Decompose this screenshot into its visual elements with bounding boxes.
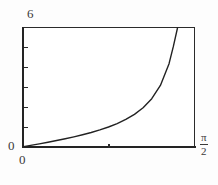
x-axis-max-numerator: π bbox=[200, 132, 208, 144]
figure-canvas: 6 0 0 π 2 bbox=[0, 0, 218, 185]
x-axis-min-label: 0 bbox=[19, 153, 26, 166]
y-axis-min-label: 0 bbox=[8, 139, 15, 152]
x-axis-max-label: π 2 bbox=[200, 132, 208, 157]
x-axis-max-denominator: 2 bbox=[200, 146, 208, 158]
curve-polyline bbox=[22, 27, 178, 147]
y-axis-max-label: 6 bbox=[27, 7, 34, 20]
data-curve bbox=[22, 27, 195, 147]
